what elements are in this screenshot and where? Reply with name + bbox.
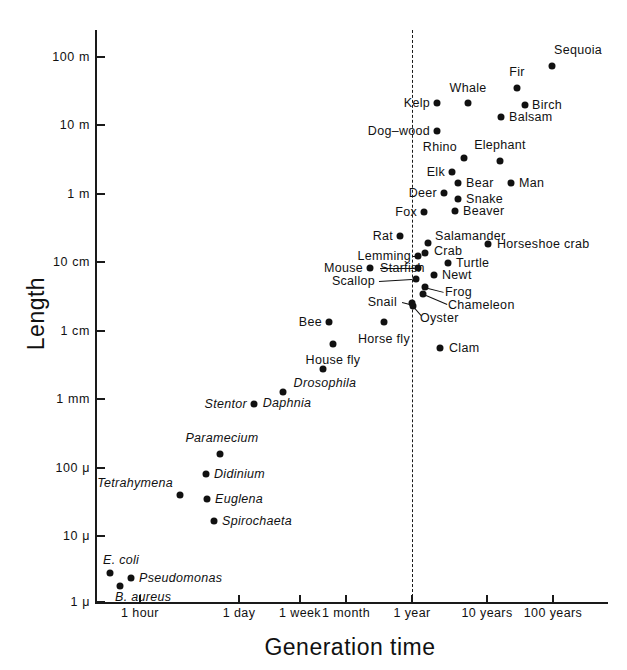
- data-point-label: Euglena: [215, 493, 263, 506]
- data-point[interactable]: [217, 451, 224, 458]
- data-point-label: Scallop: [332, 275, 375, 288]
- data-point[interactable]: [128, 575, 135, 582]
- data-point[interactable]: [434, 100, 441, 107]
- data-point-label: Bee: [299, 316, 322, 329]
- data-point-label: Paramecium: [185, 432, 258, 445]
- data-point[interactable]: [485, 241, 492, 248]
- data-point[interactable]: [320, 366, 327, 373]
- data-point[interactable]: [410, 303, 417, 310]
- data-point[interactable]: [107, 570, 114, 577]
- data-point[interactable]: [422, 250, 429, 257]
- data-point[interactable]: [280, 389, 287, 396]
- y-tick-label: 1 cm: [61, 324, 91, 338]
- data-point[interactable]: [397, 233, 404, 240]
- data-point[interactable]: [522, 102, 529, 109]
- data-point-label: Fox: [395, 206, 417, 219]
- data-point[interactable]: [330, 341, 337, 348]
- data-point[interactable]: [434, 128, 441, 135]
- data-point[interactable]: [177, 492, 184, 499]
- data-point-label: Man: [519, 177, 544, 190]
- data-point-label: Mouse: [324, 262, 363, 275]
- data-point-label: Balsam: [509, 111, 552, 124]
- data-point-label: Sequoia: [554, 44, 602, 57]
- data-point[interactable]: [421, 209, 428, 216]
- data-point-label: Salamander: [435, 230, 505, 243]
- scallop-leader: [379, 279, 412, 282]
- data-point-label: Snail: [368, 296, 397, 309]
- data-point-label: Daphnia: [263, 397, 312, 410]
- data-point-label: Clam: [449, 342, 479, 355]
- data-point[interactable]: [461, 155, 468, 162]
- y-tick-mark: [95, 124, 105, 126]
- data-point-label: Spirochaeta: [222, 515, 292, 528]
- data-point-label: Elk: [427, 166, 445, 179]
- x-tick-mark: [411, 595, 413, 603]
- y-tick-label: 100 m: [52, 50, 90, 64]
- data-point-label: Beaver: [463, 205, 504, 218]
- y-tick-mark: [95, 535, 105, 537]
- frog-leader: [428, 288, 444, 293]
- data-point[interactable]: [413, 276, 420, 283]
- x-tick-mark: [486, 595, 488, 603]
- data-point[interactable]: [449, 169, 456, 176]
- data-point-label: Fir: [509, 66, 524, 79]
- data-point-label: Rhino: [423, 141, 457, 154]
- x-tick-mark: [552, 595, 554, 603]
- y-tick-label: 1 mm: [56, 392, 90, 406]
- data-point[interactable]: [441, 190, 448, 197]
- y-axis-line: [95, 30, 97, 603]
- data-point[interactable]: [203, 471, 210, 478]
- data-point[interactable]: [508, 180, 515, 187]
- data-point[interactable]: [465, 100, 472, 107]
- y-tick-mark: [95, 398, 105, 400]
- data-point-label: Chameleon: [448, 299, 515, 312]
- data-point[interactable]: [420, 291, 427, 298]
- data-point-label: Frog: [445, 286, 472, 299]
- data-point[interactable]: [367, 265, 374, 272]
- data-point-label: Elephant: [474, 139, 526, 152]
- x-tick-mark: [238, 595, 240, 603]
- y-tick-label: 10 m: [60, 118, 90, 132]
- data-point[interactable]: [514, 85, 521, 92]
- data-point[interactable]: [455, 196, 462, 203]
- data-point[interactable]: [431, 272, 438, 279]
- y-tick-mark: [95, 601, 105, 603]
- data-point[interactable]: [117, 583, 124, 590]
- data-point[interactable]: [425, 240, 432, 247]
- data-point[interactable]: [422, 284, 429, 291]
- data-point[interactable]: [381, 319, 388, 326]
- data-point-label: Dog–wood: [368, 125, 430, 138]
- y-tick-label: 100 μ: [55, 461, 90, 475]
- y-tick-mark: [95, 261, 105, 263]
- y-tick-label: 1 m: [67, 187, 90, 201]
- data-point-label: Drosophila: [294, 377, 357, 390]
- y-tick-mark: [95, 193, 105, 195]
- data-point[interactable]: [497, 158, 504, 165]
- data-point[interactable]: [415, 253, 422, 260]
- scatter-chart: Length Generation time 100 m10 m1 m10 cm…: [0, 0, 627, 670]
- data-point-label: Starfish: [380, 262, 425, 275]
- y-tick-mark: [95, 467, 105, 469]
- x-axis-line: [95, 602, 608, 604]
- data-point[interactable]: [211, 518, 218, 525]
- y-axis-title: Length: [23, 254, 50, 374]
- data-point-label: E. coli: [103, 554, 139, 567]
- data-point[interactable]: [445, 260, 452, 267]
- data-point[interactable]: [549, 63, 556, 70]
- data-point[interactable]: [455, 180, 462, 187]
- x-axis-title: Generation time: [200, 634, 500, 661]
- data-point[interactable]: [326, 319, 333, 326]
- y-tick-mark: [95, 56, 105, 58]
- data-point-label: Oyster: [420, 312, 459, 325]
- data-point-label: Tetrahymena: [97, 477, 173, 490]
- x-tick-mark: [345, 595, 347, 603]
- data-point[interactable]: [437, 345, 444, 352]
- data-point[interactable]: [204, 496, 211, 503]
- y-tick-label: 1 μ: [71, 595, 90, 609]
- data-point-label: Rat: [373, 230, 393, 243]
- data-point[interactable]: [452, 208, 459, 215]
- data-point[interactable]: [251, 401, 258, 408]
- x-tick-label: 1 day: [223, 606, 256, 620]
- data-point[interactable]: [498, 114, 505, 121]
- x-tick-label: 1 year: [393, 606, 430, 620]
